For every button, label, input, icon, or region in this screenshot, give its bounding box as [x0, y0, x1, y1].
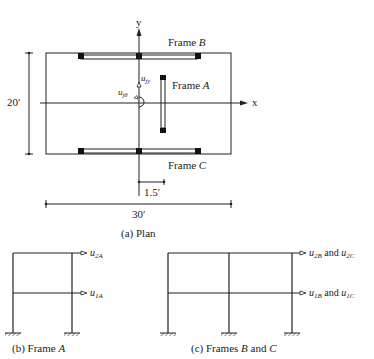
u-jy-label: ujy	[141, 73, 150, 84]
frame-b-column	[195, 53, 201, 59]
frame-a-caption: (b) Frame A	[12, 342, 65, 355]
frame-c-label: Frame C	[168, 159, 207, 171]
frame-c-column	[78, 148, 84, 154]
plan-view: x y ujy ujθ Frame B Frame A Frame C 20′	[7, 16, 258, 240]
u-jtheta-rotation-arc	[139, 97, 144, 107]
u1a-arrow-icon	[81, 291, 87, 295]
dimension-1-5ft-label: 1.5′	[144, 186, 160, 198]
dimension-dot	[230, 203, 233, 206]
frame-a-elevation: u2A u1A (b) Frame A	[5, 247, 104, 355]
u-jtheta-label: ujθ	[118, 87, 128, 98]
u1bc-arrow-icon	[300, 291, 306, 295]
dimension-dot	[28, 52, 31, 55]
frame-c-column	[195, 148, 201, 154]
frame-b-label: Frame B	[168, 36, 206, 48]
u-jtheta-arrow-icon	[134, 96, 138, 100]
dimension-dot	[45, 203, 48, 206]
dimension-dot	[138, 181, 141, 184]
u2bc-label: u2B and u2C	[309, 247, 355, 260]
dimension-1-5ft: 1.5′	[138, 179, 166, 198]
dimension-30ft: 30′	[45, 200, 233, 220]
dimension-20ft-label: 20′	[7, 96, 20, 108]
u2bc-arrow-icon	[300, 251, 306, 255]
frame-a-column	[160, 75, 166, 80]
frame-a-plan	[160, 75, 166, 133]
u2a-label: u2A	[90, 247, 104, 260]
dimension-20ft: 20′	[7, 52, 33, 156]
x-axis-arrow-icon	[240, 101, 248, 106]
u1a-label: u1A	[90, 287, 104, 300]
u1bc-label: u1B and u1C	[309, 287, 355, 300]
frame-b-column	[78, 53, 84, 59]
frames-bc-elevation: u2B and u2C u1B and u1C (c) Frames B and…	[160, 247, 355, 355]
u2a-arrow-icon	[81, 251, 87, 255]
plan-caption: (a) Plan	[121, 227, 156, 240]
dimension-30ft-label: 30′	[132, 208, 145, 220]
frame-a-label: Frame A	[172, 79, 210, 91]
frames-bc-caption: (c) Frames B and C	[191, 342, 277, 355]
frame-a-column	[160, 128, 166, 133]
structure-diagram: x y ujy ujθ Frame B Frame A Frame C 20′	[0, 0, 374, 359]
y-axis-arrow-icon	[137, 28, 142, 36]
y-axis-label: y	[136, 16, 142, 28]
x-axis-label: x	[252, 96, 258, 108]
dimension-dot	[28, 153, 31, 156]
